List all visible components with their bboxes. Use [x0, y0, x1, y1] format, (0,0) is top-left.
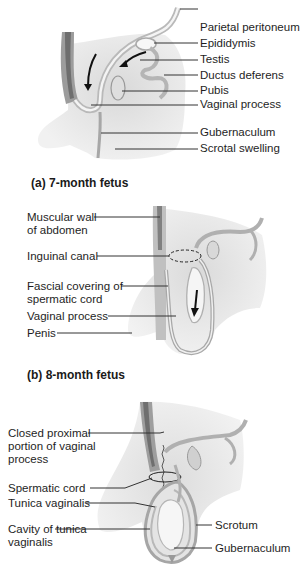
label-vaginal-process: Vaginal process [200, 98, 281, 111]
panel-b-8-month-fetus: Muscular wall of abdomen Inguinal canal … [0, 190, 308, 385]
label-ductus-deferens: Ductus deferens [200, 69, 284, 82]
pubis-shape [207, 241, 219, 259]
label-spermatic-cord: Spermatic cord [8, 482, 85, 495]
label-testis: Testis [200, 53, 229, 66]
pubis-shape [111, 76, 125, 100]
label-scrotum: Scrotum [215, 519, 258, 532]
panel-c-newborn: Closed proximal portion of vaginal proce… [0, 390, 308, 575]
label-pubis: Pubis [200, 84, 229, 97]
label-inguinal-canal: Inguinal canal [27, 250, 98, 263]
label-epididymis: Epididymis [200, 37, 256, 50]
label-fascial-covering-of-spermatic-cord: Fascial covering of spermatic cord [27, 280, 127, 306]
label-cavity-of-tunica-vaginalis: Cavity of tunica vaginalis [8, 523, 93, 549]
label-parietal-peritoneum: Parietal peritoneum [200, 21, 300, 34]
caption-panel-b: (b) 8-month fetus [27, 368, 125, 382]
label-tunica-vaginalis: Tunica vaginalis [8, 497, 90, 510]
label-gubernaculum: Gubernaculum [200, 126, 275, 139]
caption-panel-a: (a) 7-month fetus [31, 176, 128, 190]
label-closed-proximal-portion-of-vaginal-process: Closed proximal portion of vaginal proce… [8, 427, 98, 466]
label-gubernaculum: Gubernaculum [215, 542, 290, 555]
testis-shape [158, 500, 184, 550]
panel-a-7-month-fetus: Parietal peritoneum Epididymis Testis Du… [0, 0, 308, 190]
label-penis: Penis [27, 327, 56, 340]
label-scrotal-swelling: Scrotal swelling [200, 142, 280, 155]
label-muscular-wall-of-abdomen: Muscular wall of abdomen [27, 211, 107, 237]
label-vaginal-process: Vaginal process [27, 310, 108, 323]
